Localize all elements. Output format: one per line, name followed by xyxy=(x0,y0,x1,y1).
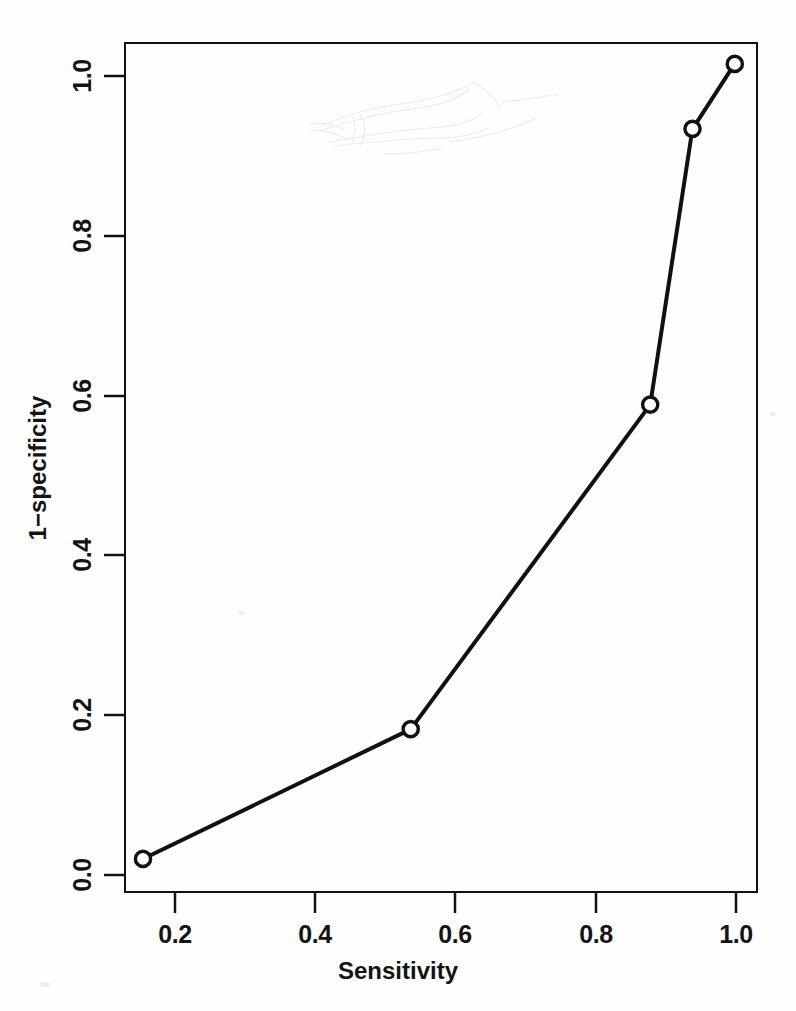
x-tick-label-2: 0.4 xyxy=(298,920,331,949)
y-axis-title: 1−specificity xyxy=(24,396,52,541)
x-tick-label-1: 0.2 xyxy=(158,920,191,949)
y-tick-label-4: 0.6 xyxy=(68,379,97,412)
x-tick-label-5: 1.0 xyxy=(719,920,752,949)
y-tick-label-6: 1.0 xyxy=(68,59,97,92)
plot-frame xyxy=(124,42,758,893)
scan-speck xyxy=(770,412,776,416)
y-tick-label-5: 0.8 xyxy=(68,219,97,252)
y-tick-label-3: 0.4 xyxy=(68,538,97,571)
x-tick-label-3: 0.6 xyxy=(438,920,471,949)
y-tick-label-1: 0.0 xyxy=(68,858,97,891)
chart-figure: 0.2 0.4 0.6 0.8 1.0 0.0 0.2 0.4 0.6 0.8 … xyxy=(0,0,796,1011)
x-axis-ticks xyxy=(175,893,736,913)
scan-speck xyxy=(238,611,245,615)
y-axis-ticks xyxy=(104,76,124,875)
y-tick-label-2: 0.2 xyxy=(68,698,97,731)
x-axis-title: Sensitivity xyxy=(338,957,458,985)
x-tick-label-4: 0.8 xyxy=(579,920,612,949)
scan-speck xyxy=(40,982,50,987)
